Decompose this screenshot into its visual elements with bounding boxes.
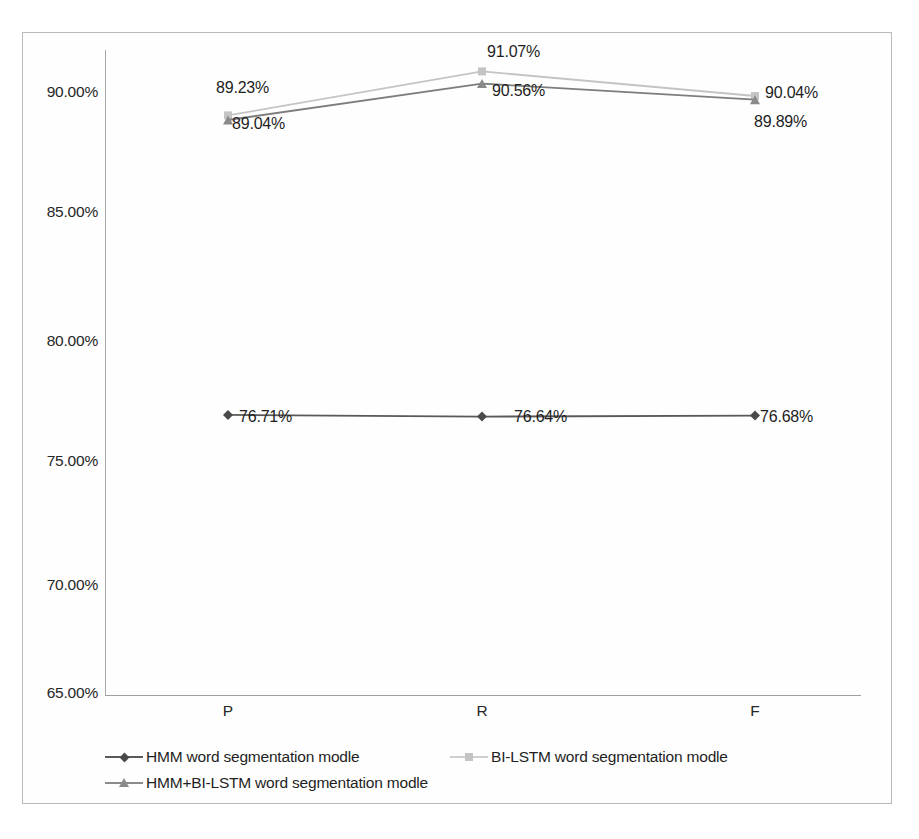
legend-row-2: HMM+BI-LSTM word segmentation modle (105, 770, 865, 796)
legend-key-diamond-icon (105, 750, 143, 764)
legend-label: HMM+BI-LSTM word segmentation modle (146, 774, 428, 792)
data-label: 76.68% (760, 408, 813, 426)
x-tick-label-f: F (735, 702, 775, 720)
x-tick-label-p: P (208, 702, 248, 720)
data-label: 91.07% (487, 43, 540, 61)
legend-key-triangle-icon (105, 776, 143, 790)
x-tick-label-r: R (462, 702, 502, 720)
legend-item-bilstm[interactable]: BI-LSTM word segmentation modle (450, 748, 728, 766)
legend-label: BI-LSTM word segmentation modle (491, 748, 728, 766)
data-label: 90.56% (492, 82, 545, 100)
data-label: 89.23% (216, 79, 269, 97)
legend-item-hybrid[interactable]: HMM+BI-LSTM word segmentation modle (105, 774, 428, 792)
data-label: 89.89% (754, 113, 807, 131)
legend-item-hmm[interactable]: HMM word segmentation modle (105, 748, 450, 766)
data-label: 76.71% (239, 408, 292, 426)
legend-row-1: HMM word segmentation modle BI-LSTM word… (105, 744, 865, 770)
data-label: 76.64% (514, 408, 567, 426)
chart-legend: HMM word segmentation modle BI-LSTM word… (105, 744, 865, 796)
data-label: 89.04% (232, 115, 285, 133)
data-label: 90.04% (765, 84, 818, 102)
legend-key-square-icon (450, 750, 488, 764)
legend-label: HMM word segmentation modle (146, 748, 359, 766)
